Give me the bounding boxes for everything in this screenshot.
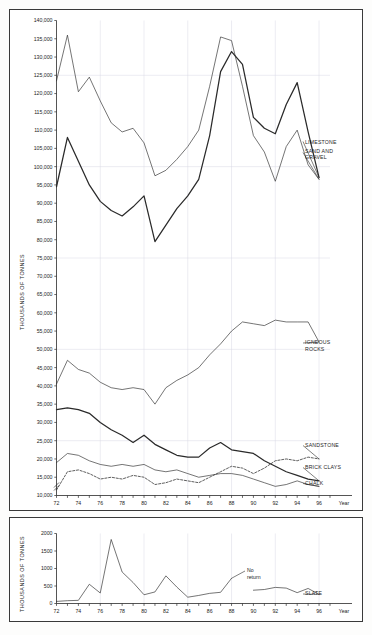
no-return-annotation-line2: return xyxy=(247,574,261,580)
chart-page: THOUSANDS OF TONNES 10,00015,00020,00025… xyxy=(0,0,372,635)
series-label-slate: SLATE xyxy=(305,590,322,596)
svg-text:86: 86 xyxy=(207,608,213,614)
svg-text:1000: 1000 xyxy=(41,565,53,571)
svg-text:82: 82 xyxy=(163,608,169,614)
bottom-gridlines xyxy=(100,534,319,604)
svg-text:96: 96 xyxy=(316,608,322,614)
svg-text:Year: Year xyxy=(339,608,350,614)
svg-text:78: 78 xyxy=(119,608,125,614)
svg-text:74: 74 xyxy=(75,608,81,614)
svg-text:94: 94 xyxy=(294,608,300,614)
bottom-series-labels: NoreturnSLATE xyxy=(232,567,323,596)
svg-text:1500: 1500 xyxy=(41,548,53,554)
svg-text:72: 72 xyxy=(54,608,60,614)
svg-text:500: 500 xyxy=(44,583,53,589)
svg-text:0: 0 xyxy=(50,600,53,606)
svg-text:2000: 2000 xyxy=(41,530,53,536)
bottom-tick-labels: 0500100015002000727476788082848688909294… xyxy=(41,530,350,613)
no-return-annotation-line1: No xyxy=(247,567,254,573)
svg-text:92: 92 xyxy=(272,608,278,614)
bottom-chart-svg: 0500100015002000727476788082848688909294… xyxy=(0,0,372,635)
svg-text:88: 88 xyxy=(229,608,235,614)
svg-text:80: 80 xyxy=(141,608,147,614)
svg-text:90: 90 xyxy=(251,608,257,614)
svg-text:84: 84 xyxy=(185,608,191,614)
svg-text:76: 76 xyxy=(97,608,103,614)
